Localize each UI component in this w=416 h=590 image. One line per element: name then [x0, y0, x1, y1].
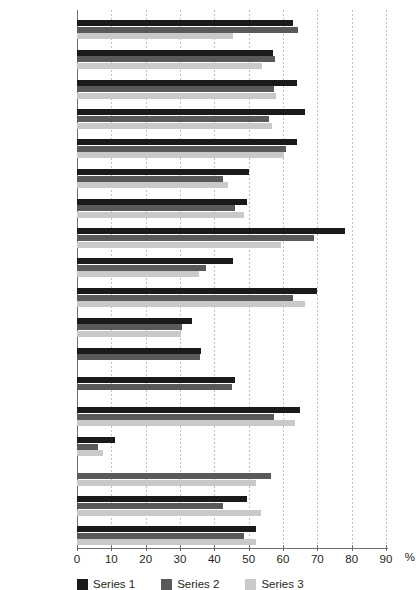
- x-axis-line: [77, 548, 388, 549]
- bar-russia-series-2: [77, 503, 223, 509]
- bar-egypt-series-3: [77, 33, 233, 39]
- legend-swatch-2: [161, 579, 172, 590]
- bar-qatar-series-2: [77, 473, 271, 479]
- bar-jordan-series-2: [77, 56, 275, 62]
- bar-uk-series-2: [77, 354, 200, 360]
- x-tick-label-20: 20: [139, 553, 152, 565]
- bar-uk-series-1: [77, 348, 201, 354]
- bar-iraq-series-3: [77, 212, 244, 218]
- bar-turkey-series-1: [77, 228, 345, 234]
- legend-swatch-1: [77, 579, 88, 590]
- plot-area: EgyptJordanLebanonPalestineSaudi ArabiaS…: [77, 10, 386, 546]
- legend-item-1: Series 1: [77, 578, 135, 590]
- bar-uae-series-1: [77, 288, 317, 294]
- bar-saudi-arabia-series-1: [77, 139, 297, 145]
- x-tick-label-10: 10: [105, 553, 118, 565]
- legend-swatch-3: [245, 579, 256, 590]
- bar-lebanon-series-3: [77, 93, 276, 99]
- bar-israel-series-3: [77, 450, 103, 456]
- bar-russia-series-1: [77, 496, 247, 502]
- bar-jordan-series-3: [77, 63, 262, 69]
- bar-turkey-series-2: [77, 235, 314, 241]
- bar-palestine-series-1: [77, 109, 305, 115]
- bar-france-series-2: [77, 384, 232, 390]
- legend-label-2: Series 2: [177, 578, 219, 590]
- bar-egypt-series-2: [77, 27, 298, 33]
- bar-germany-series-3: [77, 539, 256, 545]
- bar-usa-series-3: [77, 331, 181, 337]
- bar-egypt-series-1: [77, 20, 293, 26]
- bar-france-series-1: [77, 377, 235, 383]
- bar-china-series-1: [77, 407, 300, 413]
- x-tick-label-80: 80: [345, 553, 358, 565]
- bar-syria-series-3: [77, 182, 228, 188]
- bar-uae-series-2: [77, 295, 293, 301]
- bar-china-series-2: [77, 414, 274, 420]
- bar-saudi-arabia-series-2: [77, 146, 286, 152]
- bar-saudi-arabia-series-3: [77, 152, 284, 158]
- bar-china-series-3: [77, 420, 295, 426]
- bar-syria-series-2: [77, 176, 223, 182]
- bar-syria-series-1: [77, 169, 249, 175]
- bar-iraq-series-1: [77, 199, 247, 205]
- bar-iran-series-1: [77, 258, 233, 264]
- bar-germany-series-1: [77, 526, 256, 532]
- x-tick-label-0: 0: [74, 553, 80, 565]
- bar-iran-series-2: [77, 265, 206, 271]
- bar-iran-series-3: [77, 271, 199, 277]
- bar-uae-series-3: [77, 301, 305, 307]
- bar-usa-series-1: [77, 318, 192, 324]
- chart-legend: Series 1Series 2Series 3: [77, 578, 304, 590]
- legend-item-3: Series 3: [245, 578, 303, 590]
- x-tick-label-30: 30: [174, 553, 187, 565]
- bar-lebanon-series-2: [77, 86, 274, 92]
- bar-palestine-series-3: [77, 123, 272, 129]
- bar-germany-series-2: [77, 533, 244, 539]
- bar-qatar-series-3: [77, 480, 256, 486]
- x-axis-unit-label: %: [405, 551, 415, 563]
- legend-item-2: Series 2: [161, 578, 219, 590]
- bar-turkey-series-3: [77, 242, 281, 248]
- x-tick-label-90: 90: [380, 553, 393, 565]
- bar-lebanon-series-1: [77, 80, 297, 86]
- legend-label-1: Series 1: [93, 578, 135, 590]
- bar-usa-series-2: [77, 324, 182, 330]
- gridline-90: [386, 10, 387, 548]
- bar-russia-series-3: [77, 510, 261, 516]
- x-tick-label-70: 70: [311, 553, 324, 565]
- x-tick-label-40: 40: [208, 553, 221, 565]
- tick-90: [386, 545, 387, 551]
- bar-iraq-series-2: [77, 205, 235, 211]
- x-tick-label-60: 60: [277, 553, 290, 565]
- bar-jordan-series-1: [77, 50, 273, 56]
- x-tick-label-50: 50: [242, 553, 255, 565]
- bar-palestine-series-2: [77, 116, 269, 122]
- bar-israel-series-1: [77, 437, 115, 443]
- bar-israel-series-2: [77, 444, 98, 450]
- legend-label-3: Series 3: [261, 578, 303, 590]
